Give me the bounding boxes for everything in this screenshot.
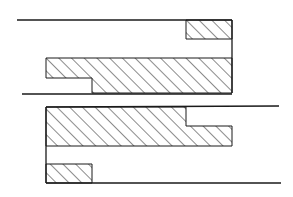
upper-view xyxy=(17,20,232,94)
lower-view xyxy=(46,106,281,183)
lower-main-hatched-block xyxy=(46,107,232,146)
upper-small-hatched-block xyxy=(186,20,232,39)
cross-section-diagram xyxy=(0,0,293,197)
upper-main-hatched-block xyxy=(46,58,232,93)
lower-small-hatched-block xyxy=(46,164,92,183)
